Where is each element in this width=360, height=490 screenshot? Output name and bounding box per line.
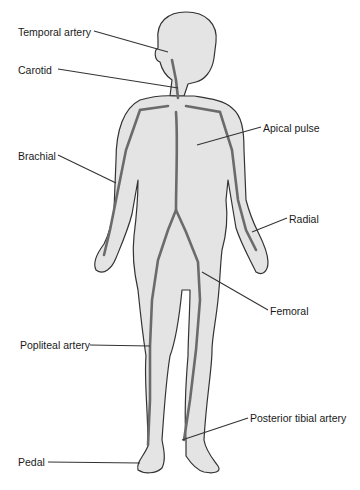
label-femoral: Femoral	[270, 305, 309, 317]
label-posterior-tibial-artery: Posterior tibial artery	[250, 412, 346, 424]
label-carotid: Carotid	[18, 64, 52, 76]
label-radial: Radial	[289, 213, 319, 225]
label-pedal: Pedal	[18, 456, 45, 468]
label-popliteal-artery: Popliteal artery	[20, 339, 90, 351]
label-brachial: Brachial	[18, 150, 56, 162]
head	[155, 12, 216, 96]
label-temporal-artery: Temporal artery	[18, 26, 91, 38]
torso	[95, 96, 268, 473]
label-apical-pulse: Apical pulse	[263, 122, 320, 134]
